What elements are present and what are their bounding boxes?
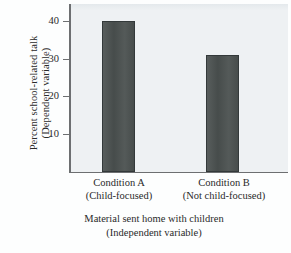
y-tick-10 [63, 134, 70, 135]
x-category-label-b-line2: (Not child-focused) [160, 189, 288, 202]
y-tick-20 [63, 96, 70, 97]
y-tick-30 [63, 59, 70, 60]
y-axis-line [69, 4, 71, 173]
y-tick-label-20: 20 [35, 91, 59, 102]
y-tick-40 [63, 21, 70, 22]
bar-condition-a [102, 21, 135, 172]
bar-chart-figure: Percent school-related talk (Dependent v… [0, 0, 291, 253]
y-tick-label-40: 40 [35, 16, 59, 27]
y-tick-label-30: 30 [35, 54, 59, 65]
x-axis-title: Material sent home with children (Indepe… [34, 212, 274, 239]
y-tick-label-10: 10 [35, 129, 59, 140]
x-axis-title-line1: Material sent home with children [34, 212, 274, 226]
x-axis-line [69, 172, 288, 174]
x-category-label-b-line1: Condition B [160, 176, 288, 189]
x-axis-title-line2: (Independent variable) [34, 226, 274, 240]
bar-condition-b [206, 55, 239, 172]
x-category-label-b: Condition B (Not child-focused) [160, 176, 288, 202]
